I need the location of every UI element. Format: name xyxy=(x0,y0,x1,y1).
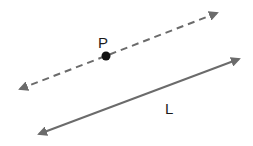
point-p-label: P xyxy=(98,34,108,51)
line-l-label: L xyxy=(165,100,173,117)
parallel-lines-diagram: P L xyxy=(0,0,253,146)
point-p xyxy=(102,52,111,61)
